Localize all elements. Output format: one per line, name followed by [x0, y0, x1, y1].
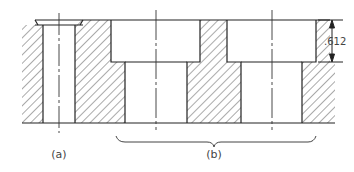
- part-b-label: (b): [206, 148, 222, 161]
- dimension-label: .612: [324, 36, 346, 47]
- material-hatching: [22, 20, 335, 123]
- part-a-label: (a): [51, 148, 66, 161]
- brace-b: [116, 136, 316, 147]
- section-diagram: .612 (a) (b): [0, 0, 354, 172]
- outline: [22, 20, 335, 123]
